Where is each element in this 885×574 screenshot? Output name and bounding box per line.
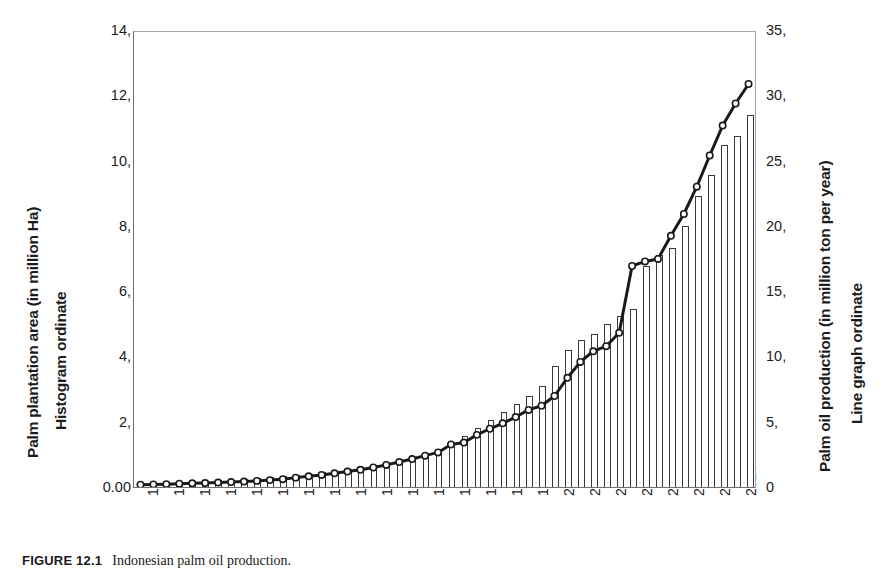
right-axis-tick-5: 10, xyxy=(766,348,786,364)
line-marker-2005 xyxy=(616,330,622,336)
line-marker-2014 xyxy=(732,100,738,106)
line-marker-1995 xyxy=(487,426,493,432)
line-marker-2001 xyxy=(564,375,570,381)
line-marker-1973 xyxy=(202,480,208,486)
line-marker-1991 xyxy=(435,449,441,455)
line-marker-1983 xyxy=(331,470,337,476)
right-axis-tick-7: 0 xyxy=(766,479,774,495)
line-marker-1980 xyxy=(293,474,299,480)
right-axis-tick-6: 5, xyxy=(766,414,778,430)
line-marker-1978 xyxy=(267,477,273,483)
line-marker-1987 xyxy=(383,462,389,468)
left-axis-title-line2: Histogram ordinate xyxy=(52,291,70,430)
plot-area xyxy=(133,31,756,488)
line-marker-1994 xyxy=(474,432,480,438)
line-marker-2002 xyxy=(577,359,583,365)
line-marker-2012 xyxy=(707,152,713,158)
line-marker-2008 xyxy=(655,256,661,262)
left-axis-tick-7: 0.00 xyxy=(103,479,131,495)
left-axis-title-line1: Palm plantation area (in million Ha) xyxy=(24,207,42,458)
line-marker-1993 xyxy=(461,439,467,445)
line-marker-1999 xyxy=(538,403,544,409)
line-marker-1990 xyxy=(422,452,428,458)
line-marker-1969 xyxy=(150,481,156,487)
line-marker-1986 xyxy=(370,464,376,470)
right-axis-tick-3: 20, xyxy=(766,218,786,234)
line-marker-2013 xyxy=(719,122,725,128)
line-marker-1988 xyxy=(396,459,402,465)
line-marker-2010 xyxy=(681,211,687,217)
line-marker-2006 xyxy=(629,263,635,269)
line-marker-1972 xyxy=(189,480,195,486)
line-marker-1977 xyxy=(254,478,260,484)
figure-caption: FIGURE 12.1Indonesian palm oil productio… xyxy=(22,553,291,569)
line-marker-2015 xyxy=(745,81,751,87)
figure-caption-text: Indonesian palm oil production. xyxy=(112,553,291,568)
line-marker-1979 xyxy=(280,476,286,482)
right-axis-title-line1: Palm oil production (in million ton per … xyxy=(816,161,834,472)
line-marker-1998 xyxy=(525,407,531,413)
line-series-layer xyxy=(134,32,755,487)
left-axis-tick-0: 14, xyxy=(111,22,131,38)
line-marker-2004 xyxy=(603,343,609,349)
line-marker-1996 xyxy=(500,420,506,426)
line-marker-1982 xyxy=(318,472,324,478)
line-marker-2003 xyxy=(590,348,596,354)
right-axis-tick-1: 30, xyxy=(766,87,786,103)
left-axis-tick-2: 10, xyxy=(111,153,131,169)
line-marker-2011 xyxy=(694,184,700,190)
left-axis-tick-3: 8, xyxy=(119,218,131,234)
line-marker-1975 xyxy=(228,479,234,485)
line-marker-1992 xyxy=(448,441,454,447)
line-marker-1970 xyxy=(163,481,169,487)
line-marker-1974 xyxy=(215,479,221,485)
right-axis-tick-4: 15, xyxy=(766,283,786,299)
line-marker-1976 xyxy=(241,478,247,484)
line-marker-2009 xyxy=(668,233,674,239)
figure-caption-label: FIGURE 12.1 xyxy=(22,553,102,568)
line-marker-2000 xyxy=(551,393,557,399)
line-marker-1984 xyxy=(344,468,350,474)
line-marker-1971 xyxy=(176,481,182,487)
line-series-path xyxy=(140,84,748,485)
left-axis-tick-5: 4, xyxy=(119,348,131,364)
line-marker-1989 xyxy=(409,456,415,462)
line-marker-1997 xyxy=(512,414,518,420)
left-axis-tick-1: 12, xyxy=(111,87,131,103)
left-axis-tick-6: 2, xyxy=(119,414,131,430)
line-marker-1981 xyxy=(305,473,311,479)
line-marker-2007 xyxy=(642,258,648,264)
right-axis-tick-2: 25, xyxy=(766,153,786,169)
right-axis-tick-0: 35, xyxy=(766,22,786,38)
right-axis-title-line2: Line graph ordinate xyxy=(848,283,866,424)
left-axis-tick-4: 6, xyxy=(119,283,131,299)
line-marker-1968 xyxy=(137,481,143,487)
figure-container: Palm plantation area (in million Ha) His… xyxy=(0,0,885,574)
line-marker-1985 xyxy=(357,467,363,473)
